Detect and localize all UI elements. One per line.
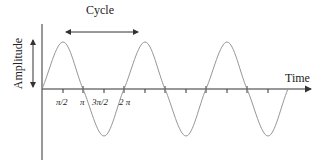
amplitude-axis-label: Amplitude [11,34,26,94]
sine-wave-diagram [0,0,330,168]
tick-label-pi-half: π/2 [56,97,68,107]
tick-label-3pi-half: 3π/2 [92,97,108,107]
tick-label-pi: π [80,97,85,107]
time-axis-label: Time [285,71,310,86]
cycle-label: Cycle [86,3,114,18]
tick-label-2pi: 2 π [119,97,130,107]
